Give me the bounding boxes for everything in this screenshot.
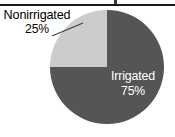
- top-divider-rule: [0, 4, 175, 6]
- pie-chart-figure: Nonirrigated 25% Irrigated 75%: [0, 0, 175, 137]
- irrigated-category-label: Irrigated: [96, 70, 170, 83]
- nonirrigated-percent-label: 25%: [1, 23, 73, 36]
- irrigated-inline-label: Irrigated 75%: [96, 70, 170, 98]
- nonirrigated-callout-label: Nonirrigated 25%: [1, 9, 73, 36]
- nonirrigated-category-label: Nonirrigated: [1, 9, 73, 22]
- clipped-title-descender-mark: [114, 0, 117, 4]
- irrigated-percent-label: 75%: [96, 85, 170, 98]
